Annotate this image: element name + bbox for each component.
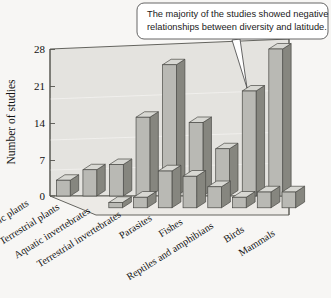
bar-chart-3d: 28 21 14 7 0 Number of studies Aquatic p… <box>0 0 331 298</box>
callout-line-1: The majority of the studies showed negat… <box>147 9 328 19</box>
bar <box>56 175 78 196</box>
bar-side-face <box>197 171 206 208</box>
bar <box>257 186 280 208</box>
bar-front-face <box>158 171 172 208</box>
bar-front-face <box>109 203 123 208</box>
bar-front-face <box>109 165 123 197</box>
bar <box>242 86 264 197</box>
bar-side-face <box>172 165 181 208</box>
chart-figure: 28 21 14 7 0 Number of studies Aquatic p… <box>0 0 331 298</box>
bar-front-face <box>183 176 197 208</box>
y-tick-label-14: 14 <box>34 117 46 129</box>
bar-front-face <box>242 91 256 196</box>
callout-line-2: relationships between diversity and lati… <box>147 22 327 32</box>
bar <box>158 165 181 208</box>
bar-front-face <box>136 117 150 196</box>
bar <box>83 164 105 196</box>
bar-front-face <box>233 197 247 208</box>
bar-side-face <box>283 44 292 197</box>
bar-front-face <box>56 180 70 196</box>
bar-front-face <box>269 49 283 196</box>
bar <box>109 159 131 196</box>
category-label: Fishes <box>156 216 184 239</box>
bar-side-face <box>256 86 265 197</box>
y-tick-label-21: 21 <box>34 80 45 92</box>
bar-front-face <box>134 197 148 208</box>
bar <box>136 112 158 196</box>
y-axis-title: Number of studies <box>5 79 17 164</box>
bar-side-face <box>230 143 239 196</box>
category-label: Birds <box>221 224 246 245</box>
category-label: Parasites <box>117 212 154 241</box>
bar-front-face <box>83 170 97 196</box>
bar-front-face <box>208 187 222 208</box>
bar <box>282 186 305 208</box>
bar <box>183 171 206 208</box>
y-tick-label-0: 0 <box>40 190 46 202</box>
bar-front-face <box>257 192 271 208</box>
bar-front-face <box>282 192 296 208</box>
y-axis: 28 21 14 7 0 Number of studies <box>5 43 55 202</box>
bar <box>269 44 291 197</box>
y-tick-label-7: 7 <box>40 154 46 166</box>
bar-side-face <box>150 112 159 196</box>
y-tick-label-28: 28 <box>34 43 46 55</box>
bar-side-face <box>123 159 132 196</box>
bar <box>208 181 231 208</box>
